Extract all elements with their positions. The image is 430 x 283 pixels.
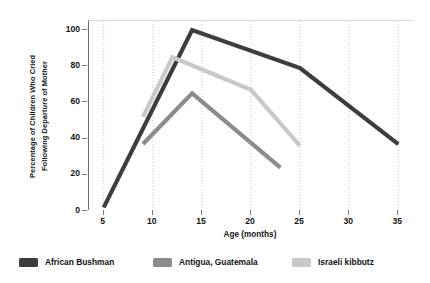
- y-axis-tick-label: 40: [50, 133, 80, 142]
- x-axis-tick-mark: [103, 210, 104, 215]
- legend-label: Israeli kibbutz: [318, 257, 374, 267]
- legend-item[interactable]: Antigua, Guatemala: [153, 255, 258, 269]
- x-axis-tick-label: 35: [382, 217, 412, 226]
- x-axis-tick-label: 5: [88, 217, 118, 226]
- data-series-line: [143, 93, 280, 167]
- x-axis-tick-label: 25: [284, 217, 314, 226]
- legend-swatch: [292, 258, 311, 267]
- x-axis-tick-mark: [152, 210, 153, 215]
- y-axis-tick-mark: [82, 101, 87, 102]
- y-axis-tick-mark: [82, 138, 87, 139]
- chart-lines: [89, 21, 413, 211]
- plot-area: [88, 20, 412, 210]
- y-axis-tick-label: 80: [50, 61, 80, 70]
- y-axis-tick-label: 100: [50, 25, 80, 34]
- y-axis-tick-mark: [82, 65, 87, 66]
- legend-label: Antigua, Guatemala: [179, 257, 258, 267]
- x-axis-tick-label: 15: [186, 217, 216, 226]
- legend-swatch: [19, 258, 38, 267]
- y-axis-tick-label: 0: [50, 206, 80, 215]
- y-axis-title: Percentage of Children Who Cried Followi…: [0, 18, 46, 214]
- x-axis-tick-mark: [397, 210, 398, 215]
- y-axis-tick-mark: [82, 29, 87, 30]
- x-axis-tick-mark: [348, 210, 349, 215]
- chart-figure: Percentage of Children Who Cried Followi…: [0, 0, 430, 283]
- legend-label: African Bushman: [45, 257, 114, 267]
- y-axis-tick-label: 20: [50, 169, 80, 178]
- legend-swatch: [153, 258, 172, 267]
- x-axis-tick-mark: [299, 210, 300, 215]
- legend-item[interactable]: Israeli kibbutz: [292, 255, 374, 269]
- y-axis-zero-tick-mark: [82, 210, 87, 211]
- x-axis-title: Age (months): [88, 230, 412, 239]
- data-series-line: [143, 57, 300, 146]
- y-axis-tick-labels: 020406080100: [50, 0, 80, 283]
- x-axis-tick-label: 10: [137, 217, 167, 226]
- y-axis-tick-label: 60: [50, 97, 80, 106]
- x-axis-tick-label: 30: [333, 217, 363, 226]
- x-axis-tick-label: 20: [235, 217, 265, 226]
- x-axis-tick-mark: [250, 210, 251, 215]
- legend-item[interactable]: African Bushman: [19, 255, 114, 269]
- y-axis-tick-mark: [82, 174, 87, 175]
- chart-legend: African BushmanAntigua, GuatemalaIsraeli…: [14, 255, 416, 271]
- x-axis-tick-mark: [201, 210, 202, 215]
